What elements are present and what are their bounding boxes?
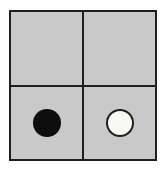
figure-canvas <box>0 0 167 177</box>
black-disc-token <box>33 109 61 137</box>
grid-cell-bottom-right <box>84 87 155 160</box>
grid-cell-bottom-left <box>11 87 82 160</box>
two-by-two-grid <box>9 10 157 161</box>
grid-cell-top-left <box>11 12 82 85</box>
white-disc-token <box>106 109 134 137</box>
grid-cell-top-right <box>84 12 155 85</box>
